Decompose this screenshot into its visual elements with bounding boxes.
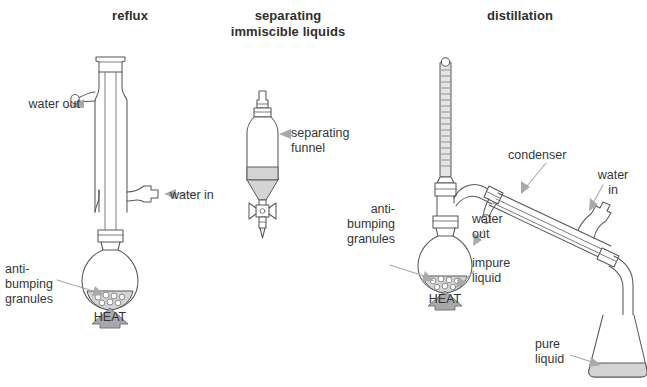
distillation-thermometer: [437, 58, 454, 183]
label-separating-funnel: separating funnel: [291, 126, 381, 156]
separating-funnel-lower-layer: [247, 167, 278, 180]
reflux-condenser-jacket: [95, 72, 127, 212]
label-distillation-heat: HEAT: [417, 292, 473, 306]
chemistry-apparatus-diagram: reflux separating immiscible liquids dis…: [0, 0, 647, 387]
label-reflux-water-in: water in: [170, 188, 240, 203]
label-reflux-anti-bumping-granules: anti- bumping granules: [5, 262, 67, 307]
separating-funnel-stopper: [257, 91, 268, 108]
label-distillation-anti-bumping-granules: anti- bumping granules: [337, 202, 395, 247]
label-distillation-water-out: water out: [472, 212, 524, 242]
label-distillation-water-in: water in: [587, 168, 639, 198]
label-distillation-pure-liquid: pure liquid: [535, 337, 587, 367]
reflux-condenser-top-joint: [96, 57, 125, 72]
reflux-water-in-port: [127, 186, 158, 202]
separating-funnel-apparatus: [247, 91, 278, 238]
separating-funnel-neck: [254, 108, 271, 117]
label-reflux-water-out: water out: [2, 97, 80, 112]
distillation-head-lower-joint: [433, 216, 458, 236]
distillation-head-top-joint: [435, 183, 456, 196]
reflux-apparatus: [71, 57, 158, 328]
label-distillation-impure-liquid: impure liquid: [472, 256, 534, 286]
separating-funnel-cone: [247, 180, 278, 200]
condenser-lower-joint: [597, 248, 619, 267]
label-reflux-heat: HEAT: [82, 310, 138, 324]
reflux-condenser-inner-tube: [105, 72, 116, 236]
separating-funnel-lower-stem: [259, 217, 266, 238]
label-distillation-condenser: condenser: [508, 148, 594, 163]
apparatus-artwork: [0, 0, 647, 387]
reflux-condenser-lower-bend: [95, 190, 99, 212]
distillation-apparatus: [418, 58, 647, 377]
reflux-lower-joint: [98, 230, 123, 250]
